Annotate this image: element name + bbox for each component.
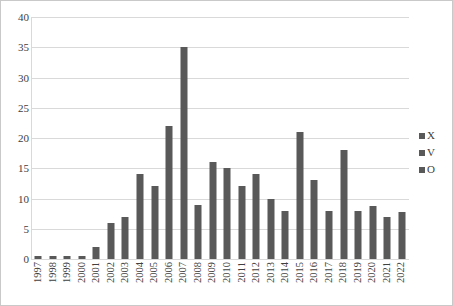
bar-slot xyxy=(162,17,177,259)
x-axis-tick-label: 2018 xyxy=(338,262,349,283)
x-axis-tick-label: 2002 xyxy=(106,262,117,283)
x-axis-tick-label: 2014 xyxy=(280,262,291,283)
bar-slot xyxy=(351,17,366,259)
bar-slot xyxy=(176,17,191,259)
x-axis-tick-label: 2021 xyxy=(382,262,393,283)
bar[interactable] xyxy=(384,217,391,259)
x-axis-tick-label: 1998 xyxy=(48,262,59,283)
plot-area xyxy=(31,17,409,259)
legend-label: X xyxy=(427,130,435,141)
bar[interactable] xyxy=(326,211,333,259)
x-axis-tick-label: 2010 xyxy=(222,262,233,283)
bar[interactable] xyxy=(355,211,362,259)
bar[interactable] xyxy=(78,256,85,259)
bar-slot xyxy=(264,17,279,259)
bar[interactable] xyxy=(267,199,274,260)
bar[interactable] xyxy=(137,174,144,259)
x-axis-tick-label: 2005 xyxy=(149,262,160,283)
legend-swatch-icon xyxy=(419,150,425,156)
x-axis-tick-label: 2004 xyxy=(135,262,146,283)
legend: XVO xyxy=(419,127,453,178)
bar-slot xyxy=(75,17,90,259)
y-axis-tick-label: 10 xyxy=(3,193,29,204)
bar[interactable] xyxy=(369,206,376,259)
bar-slot xyxy=(235,17,250,259)
bar[interactable] xyxy=(238,186,245,259)
bar-slot xyxy=(307,17,322,259)
legend-swatch-icon xyxy=(419,133,425,139)
x-axis-tick-label: 2019 xyxy=(353,262,364,283)
legend-label: V xyxy=(427,147,435,158)
bar-slot xyxy=(118,17,133,259)
x-axis-tick-label: 2000 xyxy=(77,262,88,283)
x-axis-tick-label: 2011 xyxy=(237,262,248,283)
y-axis-tick-label: 0 xyxy=(3,254,29,265)
bar-slot xyxy=(205,17,220,259)
y-axis-tick-label: 35 xyxy=(3,42,29,53)
y-axis-tick-label: 15 xyxy=(3,163,29,174)
bar[interactable] xyxy=(296,132,303,259)
x-axis-tick-label: 2020 xyxy=(367,262,378,283)
bar[interactable] xyxy=(180,47,187,259)
bar[interactable] xyxy=(253,174,260,259)
y-axis-tick-label: 25 xyxy=(3,102,29,113)
bar[interactable] xyxy=(311,180,318,259)
bar[interactable] xyxy=(49,256,56,259)
bar-slot xyxy=(365,17,380,259)
bar-slot xyxy=(133,17,148,259)
y-axis: 0510152025303540 xyxy=(1,1,29,306)
y-axis-tick-label: 40 xyxy=(3,12,29,23)
x-axis-tick-label: 2017 xyxy=(324,262,335,283)
x-axis-tick-label: 1997 xyxy=(33,262,44,283)
bar-slot xyxy=(60,17,75,259)
x-axis-tick-label: 2022 xyxy=(396,262,407,283)
x-axis-tick-label: 2008 xyxy=(193,262,204,283)
bar-slot xyxy=(31,17,46,259)
x-axis-tick-label: 1999 xyxy=(62,262,73,283)
bar[interactable] xyxy=(107,223,114,259)
bar-slot xyxy=(220,17,235,259)
bar[interactable] xyxy=(209,162,216,259)
legend-label: O xyxy=(427,164,435,175)
bar[interactable] xyxy=(35,256,42,259)
x-axis-tick-label: 2007 xyxy=(178,262,189,283)
bar-slot xyxy=(46,17,61,259)
bar[interactable] xyxy=(151,186,158,259)
x-axis-tick-label: 2012 xyxy=(251,262,262,283)
x-axis-tick-label: 2016 xyxy=(309,262,320,283)
y-axis-tick-label: 5 xyxy=(3,223,29,234)
bar[interactable] xyxy=(398,212,405,259)
bar[interactable] xyxy=(340,150,347,259)
x-axis-tick-label: 2013 xyxy=(266,262,277,283)
bar[interactable] xyxy=(64,256,71,259)
bar[interactable] xyxy=(166,126,173,259)
bar-slot xyxy=(394,17,409,259)
bar[interactable] xyxy=(122,217,129,259)
bar[interactable] xyxy=(195,205,202,259)
legend-item[interactable]: O xyxy=(419,161,453,178)
x-axis-tick-label: 2015 xyxy=(295,262,306,283)
legend-item[interactable]: V xyxy=(419,144,453,161)
bar-slot xyxy=(293,17,308,259)
y-axis-tick-label: 30 xyxy=(3,72,29,83)
bar-slot xyxy=(104,17,119,259)
bar[interactable] xyxy=(282,211,289,259)
bar-series xyxy=(31,17,409,259)
bar-slot xyxy=(147,17,162,259)
x-axis-tick-label: 2006 xyxy=(164,262,175,283)
x-axis: 1997199819992000200120022003200420052006… xyxy=(31,260,409,306)
bar-slot xyxy=(322,17,337,259)
x-axis-tick-label: 2001 xyxy=(91,262,102,283)
legend-item[interactable]: X xyxy=(419,127,453,144)
bar-slot xyxy=(336,17,351,259)
bar-slot xyxy=(380,17,395,259)
legend-swatch-icon xyxy=(419,167,425,173)
x-axis-tick-label: 2009 xyxy=(207,262,218,283)
bar[interactable] xyxy=(224,168,231,259)
bar-slot xyxy=(278,17,293,259)
bar[interactable] xyxy=(93,247,100,259)
bar-slot xyxy=(89,17,104,259)
bar-chart: 0510152025303540 19971998199920002001200… xyxy=(0,0,453,306)
bar-slot xyxy=(191,17,206,259)
bar-slot xyxy=(249,17,264,259)
